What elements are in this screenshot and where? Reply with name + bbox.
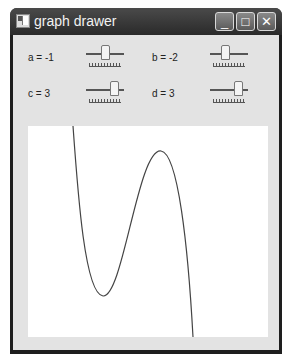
label-b: b = -2 [152, 52, 178, 63]
slider-c[interactable] [86, 81, 124, 103]
title-bar[interactable]: graph drawer _ □ ✕ [10, 8, 282, 35]
label-c: c = 3 [28, 88, 50, 99]
slider-thumb[interactable] [110, 81, 119, 96]
label-a: a = -1 [28, 52, 54, 63]
minimize-button[interactable]: _ [215, 12, 234, 31]
slider-ticks [89, 99, 121, 103]
close-button[interactable]: ✕ [257, 12, 276, 31]
slider-a[interactable] [86, 45, 124, 67]
graph-canvas [28, 126, 268, 337]
slider-ticks [213, 99, 245, 103]
maximize-button[interactable]: □ [236, 12, 255, 31]
function-curve [28, 126, 268, 337]
label-d: d = 3 [152, 88, 175, 99]
slider-ticks [89, 63, 121, 67]
app-icon[interactable] [16, 14, 30, 28]
slider-thumb[interactable] [221, 45, 230, 60]
window-title: graph drawer [34, 13, 117, 29]
client-area: a = -1 b = -2 c = 3 d = 3 [13, 35, 279, 350]
slider-b[interactable] [210, 45, 248, 67]
app-window: graph drawer _ □ ✕ a = -1 b = -2 c = 3 d… [10, 8, 282, 354]
slider-thumb[interactable] [234, 81, 243, 96]
slider-thumb[interactable] [101, 45, 110, 60]
slider-ticks [213, 63, 245, 67]
slider-d[interactable] [210, 81, 248, 103]
